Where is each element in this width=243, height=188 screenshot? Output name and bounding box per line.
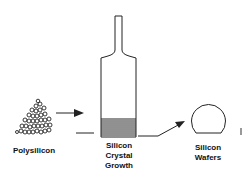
wafer-icon — [191, 104, 225, 133]
label-line: Polysilicon — [8, 146, 60, 156]
polysilicon-label: Polysilicon — [8, 146, 60, 156]
crystal-ingot-icon — [76, 16, 136, 137]
wafers-label: Silicon Wafers — [185, 143, 231, 163]
crystal-growth-label: Silicon Crystal Growth — [93, 141, 145, 171]
label-line: Growth — [93, 161, 145, 171]
label-line: Silicon — [185, 143, 231, 153]
label-line: Wafers — [185, 153, 231, 163]
arrow-poly-to-crystal — [56, 109, 84, 117]
label-line: Crystal — [93, 151, 145, 161]
arrow-crystal-to-wafers — [138, 121, 185, 136]
polysilicon-pile-icon — [16, 99, 53, 134]
label-line: Silicon — [93, 141, 145, 151]
